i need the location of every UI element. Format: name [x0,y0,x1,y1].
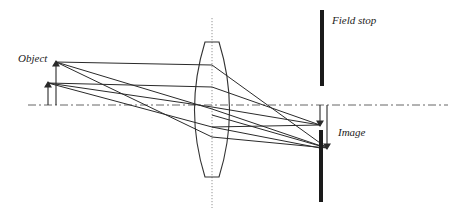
optical-diagram: Object Field stop Image [0,0,451,215]
field-stop-lower [319,130,323,202]
image-label: Image [337,126,366,138]
rays-lower [212,115,327,148]
field-stop-label: Field stop [331,14,377,26]
field-stop-upper [320,10,324,86]
object-label: Object [18,52,48,64]
